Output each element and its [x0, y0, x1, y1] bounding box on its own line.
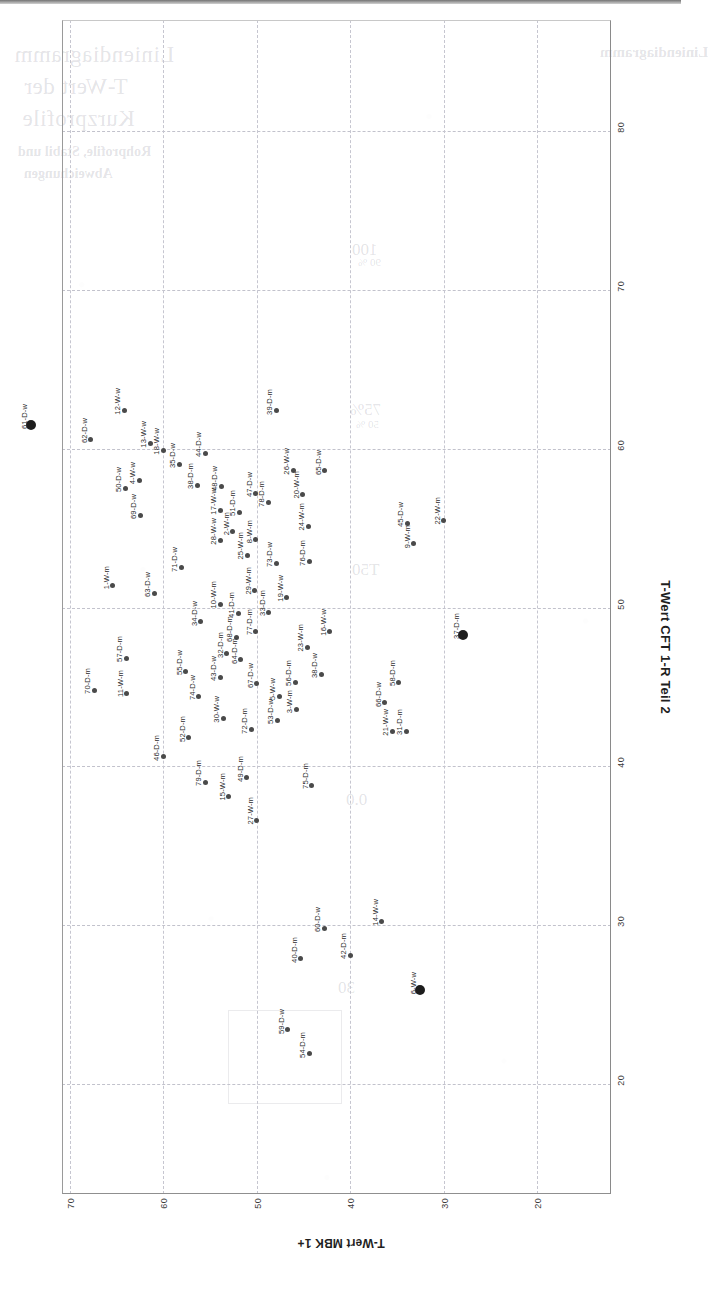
- data-point: [274, 408, 279, 413]
- data-point-label: 67-D-w: [247, 663, 255, 688]
- data-point-label: 70-D-m: [84, 668, 92, 694]
- data-point: [138, 513, 143, 518]
- data-point-label: 26-W-w: [283, 448, 291, 475]
- data-point: [183, 669, 188, 674]
- y-tick-label-40: 40: [346, 1198, 356, 1209]
- y-tick-label-30: 30: [440, 1198, 450, 1209]
- data-point-label: 54-D-m: [299, 1032, 307, 1058]
- data-point-label: 28-W-w: [210, 518, 218, 545]
- data-point-label: 42-D-m: [340, 933, 348, 959]
- data-point: [348, 953, 353, 958]
- data-point: [203, 451, 208, 456]
- data-point-label: 1-W-m: [103, 566, 111, 589]
- data-point: [237, 510, 242, 515]
- data-point-label: 78-D-m: [258, 481, 266, 507]
- data-point: [305, 645, 310, 650]
- data-point-label: 19-W-w: [277, 575, 285, 602]
- data-point-label: 4-W-w: [129, 462, 137, 484]
- data-point-label: 20-W-m: [293, 471, 301, 498]
- y-tick-label-60: 60: [159, 1198, 169, 1209]
- data-point-label: 29-W-m: [245, 567, 253, 594]
- data-point: [307, 1051, 312, 1056]
- data-point: [122, 408, 127, 413]
- data-point-label: 53-D-w: [267, 699, 275, 724]
- data-point: [236, 611, 241, 616]
- data-point: [275, 718, 280, 723]
- data-point-label: 51-D-m: [229, 490, 237, 516]
- plot-frame: [62, 20, 611, 1194]
- data-point-label: 40-D-m: [291, 937, 299, 963]
- data-point-label: 61-D-w: [21, 404, 29, 429]
- data-point-label: 27-W-m: [247, 797, 255, 824]
- x-tick-label-50: 50: [616, 599, 626, 610]
- data-point-label: 72-D-m: [241, 708, 249, 734]
- data-point-label: 55-D-w: [176, 650, 184, 675]
- data-point-label: 46-D-m: [153, 735, 161, 761]
- data-point: [230, 529, 235, 534]
- data-point: [245, 553, 250, 558]
- data-point-label: 69-D-w: [130, 494, 138, 519]
- data-point-label: 25-W-m: [237, 532, 245, 559]
- data-point: [294, 707, 299, 712]
- data-point-label: 49-D-m: [237, 756, 245, 782]
- data-point: [266, 500, 271, 505]
- data-point: [152, 591, 157, 596]
- data-point-label: 16-W-w: [320, 609, 328, 636]
- data-point: [203, 780, 208, 785]
- data-point-label: 21-W-w: [382, 709, 390, 736]
- data-point: [218, 602, 223, 607]
- data-point: [195, 483, 200, 488]
- data-point: [244, 775, 249, 780]
- data-point-label: 6-W-w: [410, 972, 418, 994]
- data-point: [322, 926, 327, 931]
- data-point-label: 12-W-w: [114, 388, 122, 415]
- data-point-label: 60-D-w: [314, 907, 322, 932]
- data-point-label: 75-D-m: [302, 763, 310, 789]
- data-point-label: 23-W-m: [297, 624, 305, 651]
- x-tick-label-70: 70: [616, 281, 626, 292]
- data-point-label: 15-W-m: [219, 773, 227, 800]
- data-point: [277, 694, 282, 699]
- x-tick-label-40: 40: [616, 757, 626, 768]
- y-axis-title: T-Wert MBK 1+: [297, 1236, 384, 1250]
- data-point-label: 41-D-m: [228, 592, 236, 618]
- data-point: [396, 680, 401, 685]
- data-point-label: 34-D-w: [191, 601, 199, 626]
- data-point-label: 10-W-m: [210, 581, 218, 608]
- data-point: [307, 559, 312, 564]
- data-point: [221, 716, 226, 721]
- data-point-label: 17-W-w: [210, 488, 218, 515]
- data-point-label: 65-D-w: [315, 450, 323, 475]
- data-point-label: 13-W-w: [140, 421, 148, 448]
- data-point: [88, 437, 93, 442]
- data-point: [319, 672, 324, 677]
- data-point-label: 50-D-w: [115, 467, 123, 492]
- x-tick-label-20: 20: [616, 1075, 626, 1086]
- data-point: [327, 629, 332, 634]
- data-point-label: 22-W-m: [434, 497, 442, 524]
- x-axis-title: T-Wert CFT 1-R Teil 2: [658, 580, 673, 714]
- data-point: [161, 448, 166, 453]
- data-point-label: 9-W-m: [404, 525, 412, 548]
- x-tick-label-30: 30: [616, 916, 626, 927]
- data-point-label: 11-W-m: [117, 670, 125, 697]
- data-point: [218, 675, 223, 680]
- data-point-label: 24-W-m: [298, 503, 306, 530]
- data-point-label: 31-D-m: [396, 709, 404, 735]
- y-tick-label-20: 20: [533, 1198, 543, 1209]
- data-point-label: 79-D-m: [195, 760, 203, 786]
- data-point-label: 71-D-w: [171, 547, 179, 572]
- data-point-label: 18-W-w: [153, 428, 161, 455]
- data-point-label: 43-D-w: [210, 656, 218, 681]
- data-point-label: 38-D-m: [187, 463, 195, 489]
- y-tick-label-70: 70: [66, 1198, 76, 1209]
- data-point-label: 73-D-w: [266, 542, 274, 567]
- data-point: [390, 729, 395, 734]
- data-point-label: 33-D-m: [259, 590, 267, 616]
- data-point-label: 35-D-w: [169, 443, 177, 468]
- data-point-label: 56-D-m: [285, 660, 293, 686]
- data-point-label: 52-D-m: [179, 716, 187, 742]
- data-point: [274, 561, 279, 566]
- x-tick-label-60: 60: [616, 440, 626, 451]
